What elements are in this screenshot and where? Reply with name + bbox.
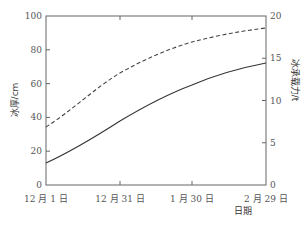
y2-tick-0: 0 [270, 180, 276, 190]
x-tick-jan30: 1 月 30 日 [170, 194, 214, 204]
y2-tick-15: 15 [270, 53, 282, 63]
y-tick-0: 0 [36, 180, 42, 190]
y2-tick-20: 20 [270, 11, 282, 21]
x-tick-dec31: 12 月 31 日 [95, 194, 145, 204]
y-tick-100: 100 [25, 11, 42, 21]
left-y-ticks [46, 50, 50, 151]
y-tick-80: 80 [31, 45, 43, 55]
y-tick-60: 60 [31, 79, 43, 89]
x-axis-title: 日期 [234, 206, 252, 216]
x-tick-feb29: 2 月 29 日 [244, 194, 288, 204]
chart-canvas: 0 20 40 60 80 100 0 5 10 15 20 12 月 1 日 … [0, 0, 306, 227]
series-ice-thickness-solid [46, 63, 266, 163]
y2-tick-5: 5 [270, 138, 276, 148]
y-axis-title: 冰厚/cm [9, 83, 20, 118]
y2-tick-10: 10 [270, 96, 282, 106]
y2-axis-title: 冰承载力/t [290, 59, 301, 102]
x-tick-dec1: 12 月 1 日 [24, 194, 68, 204]
y-tick-20: 20 [31, 146, 43, 156]
series-bearing-capacity-dashed [46, 28, 266, 127]
y-tick-40: 40 [31, 112, 43, 122]
right-y-ticks [262, 58, 266, 143]
